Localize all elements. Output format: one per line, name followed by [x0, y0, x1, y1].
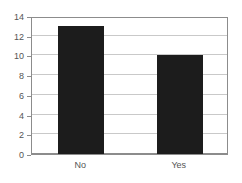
y-axis-label-8: 8 — [0, 72, 24, 81]
y-axis-label-4: 4 — [0, 111, 24, 120]
y-axis-label-14: 14 — [0, 13, 24, 22]
y-axis-tick-labels: 02468101214 — [0, 17, 24, 155]
y-axis-label-2: 2 — [0, 131, 24, 140]
plot-area — [32, 18, 227, 154]
y-axis-label-12: 12 — [0, 32, 24, 41]
x-axis-tick-labels: NoYes — [31, 160, 228, 174]
bar-yes — [157, 55, 203, 154]
y-axis-label-6: 6 — [0, 91, 24, 100]
x-axis-label-no: No — [74, 160, 86, 171]
y-axis-label-10: 10 — [0, 52, 24, 61]
y-tick-0 — [27, 155, 31, 156]
y-axis-label-0: 0 — [0, 151, 24, 160]
plot-frame — [31, 17, 228, 155]
gridline-14 — [32, 15, 227, 16]
bar-no — [58, 26, 104, 154]
x-axis-label-yes: Yes — [171, 160, 186, 171]
bar-chart: 02468101214 NoYes — [0, 0, 242, 183]
